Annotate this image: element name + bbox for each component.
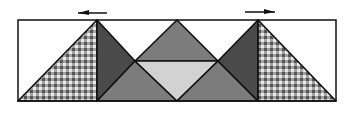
quilt-diagram-svg: [0, 0, 349, 120]
left-arrow-icon: [78, 10, 107, 15]
right-gingham-triangle: [258, 20, 336, 101]
quilt-pieces: [18, 20, 336, 101]
top-medium-triangle: [135, 20, 218, 61]
left-gingham-triangle: [18, 20, 97, 101]
quilt-diagram: [0, 0, 349, 120]
right-arrow-icon: [245, 9, 275, 14]
direction-arrows: [78, 9, 275, 15]
